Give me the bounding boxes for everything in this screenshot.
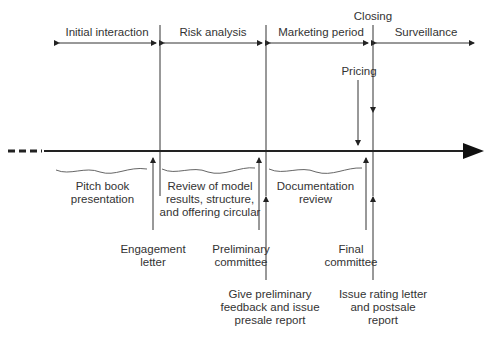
phase-risk-analysis: Risk analysis [163, 26, 263, 39]
event-preliminary-committee: Preliminary committee [206, 243, 276, 269]
phase-marketing-period: Marketing period [269, 26, 373, 39]
event-engagement-letter: Engagement letter [120, 243, 186, 269]
phase-dividers [160, 25, 266, 196]
activity-pitch-book: Pitch book presentation [55, 180, 150, 206]
activity-review-model: Review of model results, structure, and … [158, 180, 262, 219]
timeline-axis [8, 143, 484, 159]
closing-label: Closing [343, 10, 403, 23]
phase-initial-interaction: Initial interaction [57, 26, 157, 39]
event-presale-report: Give preliminary feedback and issue pres… [218, 288, 322, 327]
activity-braces [56, 168, 362, 174]
event-final-committee: Final committee [318, 243, 384, 269]
phase-surveillance: Surveillance [376, 26, 476, 39]
event-postsale-report: Issue rating letter and postsale report [330, 288, 436, 327]
pricing-label: Pricing [339, 65, 379, 78]
activity-documentation-review: Documentation review [268, 180, 363, 206]
